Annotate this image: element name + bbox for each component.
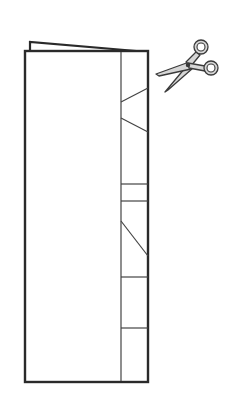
booklet-cut-diagram [0,0,231,413]
scissors-pivot [186,63,189,66]
booklet-front-page [25,51,148,382]
scissors-icon [156,40,218,92]
